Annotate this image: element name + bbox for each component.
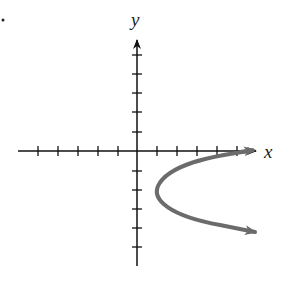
- parabola-plot: y x: [0, 0, 283, 284]
- x-axis-label: x: [263, 141, 273, 162]
- y-axis-label: y: [129, 9, 140, 30]
- parabola-curve: [157, 151, 255, 232]
- stray-mark: [2, 19, 5, 22]
- parabola-top-arrow: [240, 150, 254, 152]
